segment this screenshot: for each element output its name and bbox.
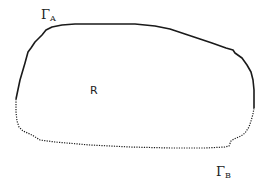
region-diagram xyxy=(0,0,269,183)
region-r-label: R xyxy=(90,84,98,97)
gamma-b-label: ΓB xyxy=(216,164,231,180)
boundary-gamma-b xyxy=(16,99,254,148)
gamma-a-label: ΓA xyxy=(41,7,56,23)
boundary-gamma-a xyxy=(16,24,254,108)
